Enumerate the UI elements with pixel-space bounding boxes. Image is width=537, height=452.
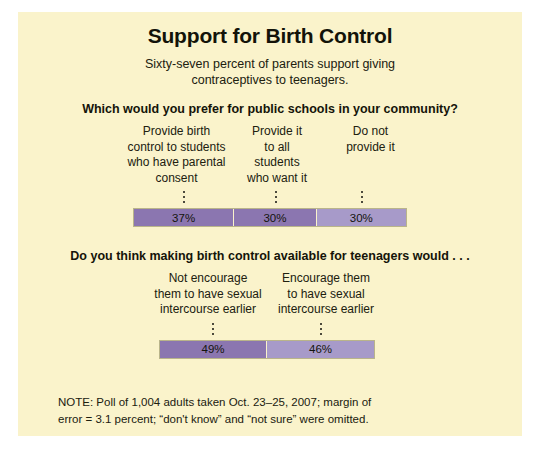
label-line: them to have sexual [149, 287, 267, 303]
label-line: Do not [321, 124, 420, 140]
label-line: who have parental [120, 155, 233, 171]
leader-cell [317, 191, 407, 203]
source-note: NOTE: Poll of 1,004 adults taken Oct. 23… [58, 394, 494, 428]
dotted-leader-icon [275, 191, 277, 203]
chart-1-bar-1: 30% [234, 209, 316, 226]
label-line: Provide birth [120, 124, 233, 140]
chart-1-category-label-0: Provide birth control to students who ha… [120, 124, 233, 186]
label-line: Not encourage [149, 271, 267, 287]
infographic-panel: Support for Birth Control Sixty-seven pe… [18, 12, 522, 436]
label-line: students [233, 155, 321, 171]
chart-2-category-label-0: Not encourage them to have sexual interc… [149, 271, 267, 318]
chart-1: Provide birth control to students who ha… [133, 124, 407, 227]
chart-1-category-label-2: Do not provide it [321, 124, 420, 186]
chart-1-question: Which would you prefer for public school… [18, 102, 522, 116]
leader-cell [234, 191, 317, 203]
chart-1-bar-0: 37% [134, 209, 234, 226]
label-line: to have sexual [267, 287, 385, 303]
note-line-1: NOTE: Poll of 1,004 adults taken Oct. 23… [58, 394, 494, 411]
label-line: intercourse earlier [267, 302, 385, 318]
label-line: consent [120, 171, 233, 187]
subtitle-line-2: contraceptives to teenagers. [18, 72, 522, 88]
label-line: who want it [233, 171, 321, 187]
label-line: provide it [321, 140, 420, 156]
label-line: to all [233, 140, 321, 156]
label-line: intercourse earlier [149, 302, 267, 318]
chart-1-leader-lines [133, 186, 407, 208]
label-line: Provide it [233, 124, 321, 140]
note-line-2: error = 3.1 percent; “don't know” and “n… [58, 411, 494, 428]
leader-cell [133, 191, 234, 203]
chart-2-category-labels: Not encourage them to have sexual interc… [149, 271, 385, 318]
chart-1-category-label-1: Provide it to all students who want it [233, 124, 321, 186]
chart-2-bar-1: 46% [267, 341, 374, 358]
leader-cell [267, 323, 375, 335]
chart-1-bar-2: 30% [317, 209, 406, 226]
label-line: Encourage them [267, 271, 385, 287]
chart-2-question: Do you think making birth control availa… [18, 249, 522, 263]
dotted-leader-icon [183, 191, 185, 203]
chart-2-category-label-1: Encourage them to have sexual intercours… [267, 271, 385, 318]
label-line: control to students [120, 140, 233, 156]
subtitle: Sixty-seven percent of parents support g… [18, 56, 522, 88]
dotted-leader-icon [320, 323, 322, 335]
chart-2: Not encourage them to have sexual interc… [159, 271, 375, 359]
page-title: Support for Birth Control [18, 24, 522, 48]
subtitle-line-1: Sixty-seven percent of parents support g… [18, 56, 522, 72]
dotted-leader-icon [361, 191, 363, 203]
chart-2-bars: 49% 46% [159, 340, 375, 359]
chart-1-category-labels: Provide birth control to students who ha… [120, 124, 420, 186]
chart-2-leader-lines [159, 318, 375, 340]
chart-2-bar-0: 49% [160, 341, 267, 358]
leader-cell [159, 323, 267, 335]
dotted-leader-icon [212, 323, 214, 335]
chart-1-bars: 37% 30% 30% [133, 208, 407, 227]
